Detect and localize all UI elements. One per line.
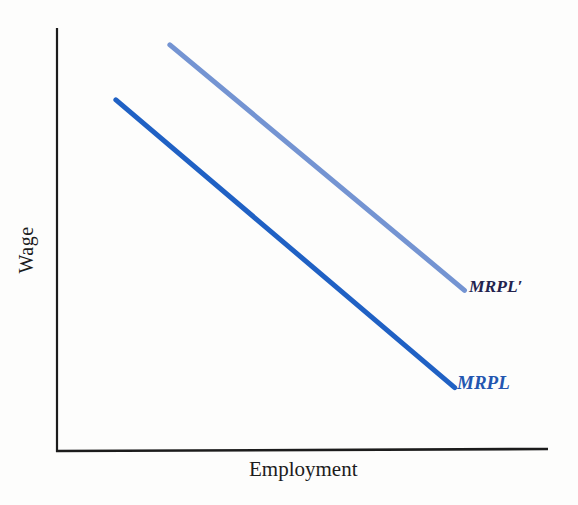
x-axis [56,449,548,451]
y-axis-label: Wage [15,226,38,273]
x-axis-label: Employment [249,457,358,482]
mrpl-prime-label: MRPL′ [469,276,523,297]
chart-canvas [0,0,578,505]
mrpl-prime-line [170,45,465,290]
mrpl-label: MRPL [457,372,510,394]
mrpl-shift-chart: Wage Employment MRPL′ MRPL [0,0,578,505]
